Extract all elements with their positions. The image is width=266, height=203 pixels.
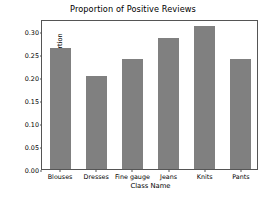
x-tick-label: Pants — [232, 173, 249, 181]
bar-series — [42, 21, 257, 169]
y-tick-label: 0.30 — [25, 29, 39, 37]
chart-figure: Proportion of Positive Reviews Positive … — [0, 0, 266, 203]
x-tick-mark — [204, 169, 205, 172]
bar — [194, 26, 215, 169]
x-axis-label: Class Name — [42, 182, 259, 190]
plot-area: Positive Proportion 0.000.050.100.150.20… — [41, 20, 258, 170]
bar — [158, 38, 179, 169]
x-tick-label: Dresses — [84, 173, 109, 181]
x-tick-mark — [240, 169, 241, 172]
y-tick-mark — [40, 171, 43, 172]
bar — [50, 48, 71, 169]
y-tick-label: 0.15 — [25, 98, 39, 106]
x-tick-mark — [60, 169, 61, 172]
y-tick-label: 0.10 — [25, 121, 39, 129]
bar — [86, 76, 107, 169]
x-tick-label: Blouses — [48, 173, 73, 181]
chart-title: Proportion of Positive Reviews — [0, 4, 266, 14]
x-tick-label: Fine gauge — [115, 173, 150, 181]
x-tick-mark — [96, 169, 97, 172]
x-tick-mark — [168, 169, 169, 172]
x-tick-label: Knits — [197, 173, 213, 181]
x-tick-mark — [132, 169, 133, 172]
y-tick-label: 0.20 — [25, 75, 39, 83]
y-tick-label: 0.05 — [25, 144, 39, 152]
y-tick-label: 0.25 — [25, 52, 39, 60]
x-tick-label: Jeans — [160, 173, 177, 181]
bar — [230, 59, 251, 169]
y-tick-label: 0.00 — [25, 167, 39, 175]
bar — [122, 59, 143, 169]
